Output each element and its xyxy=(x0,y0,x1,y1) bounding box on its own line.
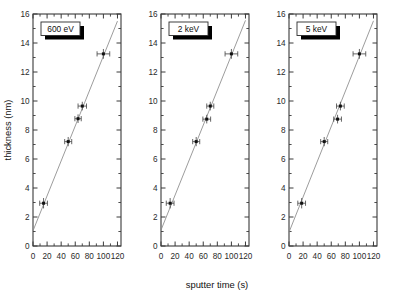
panel-2: 02468101214160204060801001202 keV xyxy=(148,10,252,261)
panel-label-text: 600 eV xyxy=(47,24,74,34)
y-tick-label: 2 xyxy=(25,213,30,222)
y-tick-label: 10 xyxy=(276,97,286,106)
fit-line xyxy=(161,20,245,230)
y-tick-label: 14 xyxy=(276,39,286,48)
y-tick-label: 0 xyxy=(25,242,30,251)
panel-3: 02468101214160204060801001205 keV xyxy=(276,10,380,261)
x-tick-label: 40 xyxy=(313,252,323,261)
y-axis-title: thickness (nm) xyxy=(2,100,13,161)
y-tick-label: 14 xyxy=(148,39,158,48)
data-point xyxy=(207,102,214,111)
y-tick-label: 4 xyxy=(281,184,286,193)
data-point xyxy=(334,115,342,124)
y-tick-label: 4 xyxy=(153,184,158,193)
y-tick-label: 16 xyxy=(276,10,286,19)
data-marker xyxy=(300,202,303,205)
y-tick-label: 8 xyxy=(25,126,30,135)
x-tick-label: 120 xyxy=(111,252,125,261)
panel-frame xyxy=(33,14,121,246)
y-tick-label: 14 xyxy=(20,39,30,48)
x-tick-label: 120 xyxy=(239,252,253,261)
data-marker xyxy=(81,105,84,108)
x-tick-label: 0 xyxy=(159,252,164,261)
y-tick-label: 6 xyxy=(25,155,30,164)
data-marker xyxy=(339,105,342,108)
multipanel-scatter-chart: 0246810121416020406080100120600 eV024681… xyxy=(0,0,401,298)
y-tick-label: 2 xyxy=(153,213,158,222)
panel-label: 2 keV xyxy=(169,22,212,40)
data-marker xyxy=(230,52,233,55)
y-tick-label: 2 xyxy=(281,213,286,222)
y-tick-label: 12 xyxy=(20,68,30,77)
data-point xyxy=(97,49,110,59)
data-marker xyxy=(209,105,212,108)
panel-frame xyxy=(161,14,249,246)
data-point xyxy=(75,114,81,123)
x-tick-label: 120 xyxy=(367,252,381,261)
x-tick-label: 60 xyxy=(199,252,209,261)
x-tick-label: 20 xyxy=(43,252,53,261)
y-tick-label: 16 xyxy=(148,10,158,19)
panel-label-text: 2 keV xyxy=(178,24,200,34)
x-tick-label: 100 xyxy=(97,252,111,261)
data-marker xyxy=(195,140,198,143)
y-tick-label: 8 xyxy=(153,126,158,135)
x-tick-label: 80 xyxy=(85,252,95,261)
y-tick-label: 0 xyxy=(153,242,158,251)
data-point xyxy=(353,49,366,59)
y-tick-label: 10 xyxy=(148,97,158,106)
y-tick-label: 12 xyxy=(276,68,286,77)
x-axis-title: sputter time (s) xyxy=(186,279,249,290)
data-point xyxy=(78,102,86,111)
y-tick-label: 8 xyxy=(281,126,286,135)
data-marker xyxy=(42,202,45,205)
data-point xyxy=(40,198,48,208)
y-tick-label: 10 xyxy=(20,97,30,106)
data-marker xyxy=(336,118,339,121)
y-tick-label: 12 xyxy=(148,68,158,77)
x-tick-label: 0 xyxy=(287,252,292,261)
panel-label-text: 5 keV xyxy=(306,24,328,34)
data-marker xyxy=(102,52,105,55)
y-tick-label: 16 xyxy=(20,10,30,19)
x-tick-label: 0 xyxy=(31,252,36,261)
data-marker xyxy=(205,118,208,121)
x-tick-label: 40 xyxy=(57,252,67,261)
figure-container: 0246810121416020406080100120600 eV024681… xyxy=(0,0,401,298)
x-tick-label: 60 xyxy=(71,252,81,261)
data-marker xyxy=(67,140,70,143)
data-point xyxy=(225,49,238,59)
data-marker xyxy=(358,52,361,55)
x-tick-label: 100 xyxy=(353,252,367,261)
panel-1: 0246810121416020406080100120600 eV xyxy=(20,10,124,261)
x-tick-label: 20 xyxy=(299,252,309,261)
data-marker xyxy=(77,117,80,120)
panel-label: 5 keV xyxy=(297,22,340,40)
data-marker xyxy=(323,140,326,143)
y-tick-label: 4 xyxy=(25,184,30,193)
y-tick-label: 6 xyxy=(153,155,158,164)
y-tick-label: 0 xyxy=(281,242,286,251)
data-point xyxy=(193,137,200,146)
data-marker xyxy=(169,202,172,205)
x-tick-label: 40 xyxy=(185,252,195,261)
y-tick-label: 6 xyxy=(281,155,286,164)
x-tick-label: 80 xyxy=(341,252,351,261)
panel-label: 600 eV xyxy=(41,22,84,40)
x-tick-label: 60 xyxy=(327,252,337,261)
data-point xyxy=(337,102,345,111)
x-tick-label: 100 xyxy=(225,252,239,261)
x-tick-label: 20 xyxy=(171,252,181,261)
x-tick-label: 80 xyxy=(213,252,223,261)
panel-frame xyxy=(289,14,377,246)
